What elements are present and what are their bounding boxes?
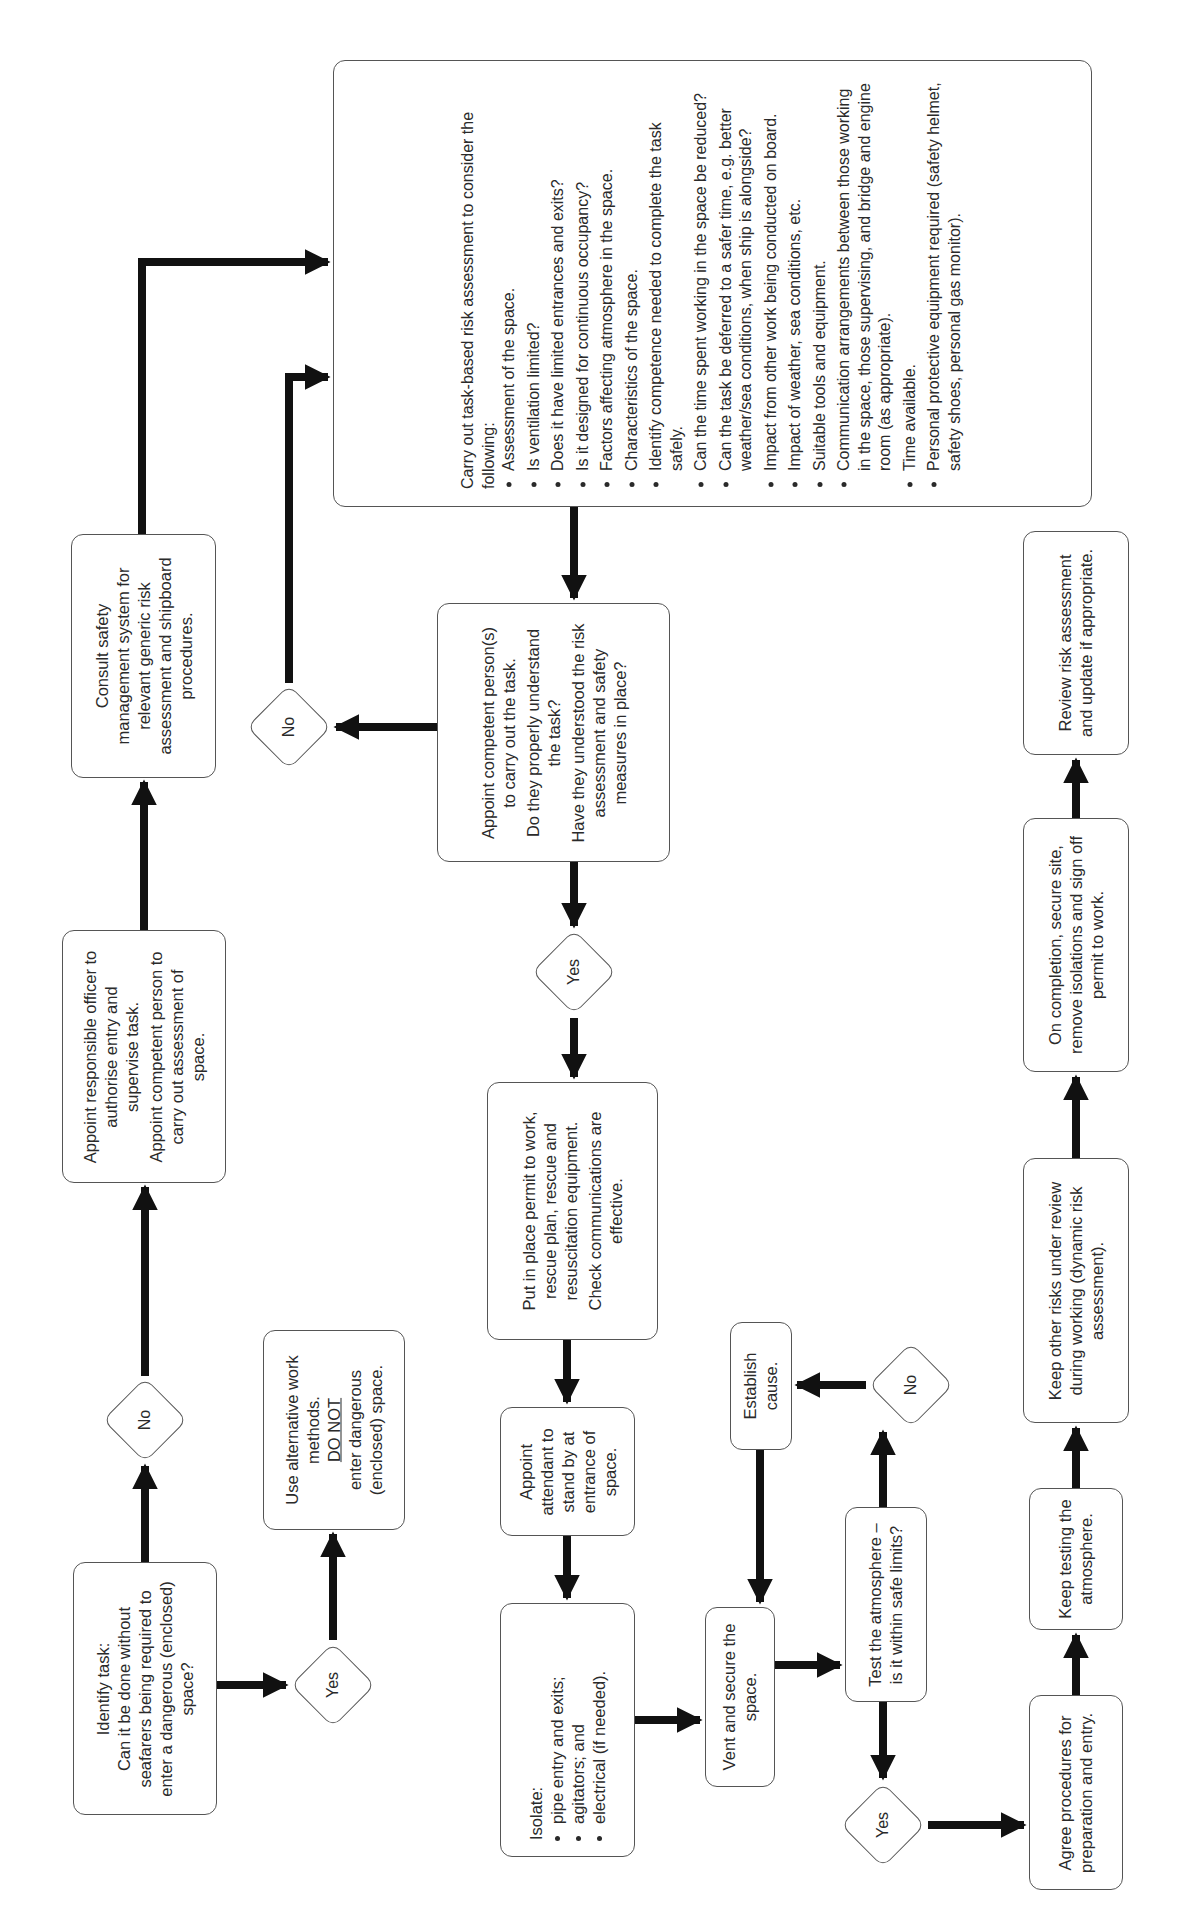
risk-item: Can the time spent working in the space …: [690, 79, 711, 471]
review-risk-box: Review risk assessment and update if app…: [1023, 531, 1129, 755]
test-atmosphere-box: Test the atmosphere – is it within safe …: [845, 1507, 927, 1702]
do-not-emphasis: DO NOT: [325, 1398, 343, 1462]
isolate-box: Isolate: pipe entry and exits; agitators…: [500, 1603, 635, 1857]
risk-item: Suitable tools and equipment.: [809, 79, 830, 471]
permit-to-work-box: Put in place permit to work, rescue plan…: [487, 1082, 658, 1340]
decision-no-2-label: No: [280, 717, 298, 737]
consult-sms-box: Consult safety management system for rel…: [71, 534, 216, 778]
agree-procedures-box: Agree procedures for preparation and ent…: [1029, 1695, 1123, 1890]
use-alternative-line2: enter dangerous (enclosed) space.: [345, 1345, 387, 1515]
isolate-title: Isolate:: [526, 1620, 547, 1840]
appoint-responsible-text-1: Appoint responsible officer to authorise…: [80, 949, 143, 1164]
use-alternative-line1: Use alternative work methods.: [282, 1345, 324, 1515]
risk-item: Is ventilation limited?: [523, 79, 544, 471]
decision-yes-3-label: Yes: [874, 1812, 892, 1838]
risk-item: Can the task be deferred to a safer time…: [715, 79, 756, 471]
appoint-attendant-text: Appoint attendant to stand by at entranc…: [515, 1417, 620, 1527]
keep-other-risks-text: Keep other risks under review during wor…: [1045, 1171, 1108, 1411]
appoint-responsible-text-2: Appoint competent person to carry out as…: [146, 949, 209, 1164]
on-completion-box: On completion, secure site, remove isola…: [1023, 818, 1129, 1072]
appoint-competent-text-2: Do they properly understand the task?: [522, 618, 564, 848]
risk-item: Does it have limited entrances and exits…: [547, 79, 568, 471]
risk-assessment-box: Carry out task-based risk assessment to …: [333, 60, 1092, 507]
risk-assessment-intro: Carry out task-based risk assessment to …: [457, 79, 498, 489]
agree-procedures-text: Agree procedures for preparation and ent…: [1055, 1708, 1097, 1878]
isolate-item: electrical (if needed).: [589, 1620, 610, 1824]
risk-item: Assessment of the space.: [498, 79, 519, 471]
vent-secure-box: Vent and secure the space.: [705, 1607, 775, 1787]
test-atmosphere-text: Test the atmosphere – is it within safe …: [865, 1517, 907, 1692]
consult-sms-text: Consult safety management system for rel…: [91, 556, 196, 756]
appoint-competent-text-1: Appoint competent person(s) to carry out…: [477, 618, 519, 848]
risk-item: Impact of weather, sea conditions, etc.: [784, 79, 805, 471]
risk-item: Is it designed for continuous occupancy?: [572, 79, 593, 471]
risk-item: Identify competence needed to complete t…: [645, 79, 686, 471]
decision-yes-1-label: Yes: [324, 1672, 342, 1698]
vent-secure-text: Vent and secure the space.: [719, 1622, 761, 1772]
identify-task-box: Identify task: Can it be done without se…: [73, 1562, 217, 1815]
risk-item: Personal protective equipment required (…: [923, 79, 964, 471]
decision-no-1-label: No: [136, 1410, 154, 1430]
keep-other-risks-box: Keep other risks under review during wor…: [1023, 1158, 1129, 1423]
appoint-competent-box: Appoint competent person(s) to carry out…: [437, 603, 670, 862]
on-completion-text: On completion, secure site, remove isola…: [1045, 833, 1108, 1058]
isolate-item: agitators; and: [568, 1620, 589, 1824]
decision-no-3-label: No: [902, 1375, 920, 1395]
permit-to-work-text-1: Put in place permit to work, rescue plan…: [519, 1104, 582, 1319]
appoint-responsible-box: Appoint responsible officer to authorise…: [62, 930, 226, 1183]
permit-to-work-text-2: Check communications are effective.: [585, 1104, 627, 1319]
establish-cause-text: Establish cause.: [740, 1341, 782, 1431]
risk-item: Characteristics of the space.: [621, 79, 642, 471]
keep-testing-text: Keep testing the atmosphere.: [1055, 1499, 1097, 1619]
review-risk-text: Review risk assessment and update if app…: [1055, 543, 1097, 743]
risk-item: Time available.: [899, 79, 920, 471]
isolate-item: pipe entry and exits;: [547, 1620, 568, 1824]
establish-cause-box: Establish cause.: [730, 1322, 792, 1450]
isolate-list: pipe entry and exits; agitators; and ele…: [547, 1620, 610, 1840]
risk-item: Impact from other work being conducted o…: [760, 79, 781, 471]
identify-task-text: Can it be done without seafarers being r…: [114, 1576, 198, 1801]
use-alternative-box: Use alternative work methods. DO NOT ent…: [263, 1330, 405, 1530]
risk-assessment-list: Assessment of the space. Is ventilation …: [498, 79, 964, 489]
keep-testing-box: Keep testing the atmosphere.: [1029, 1488, 1123, 1630]
identify-task-title: Identify task:: [93, 1576, 114, 1801]
appoint-competent-text-3: Have they understood the risk assessment…: [567, 618, 630, 848]
decision-yes-2-label: Yes: [565, 959, 583, 985]
risk-item: Communication arrangements between those…: [833, 79, 895, 471]
appoint-attendant-box: Appoint attendant to stand by at entranc…: [500, 1407, 635, 1536]
risk-item: Factors affecting atmosphere in the spac…: [596, 79, 617, 471]
